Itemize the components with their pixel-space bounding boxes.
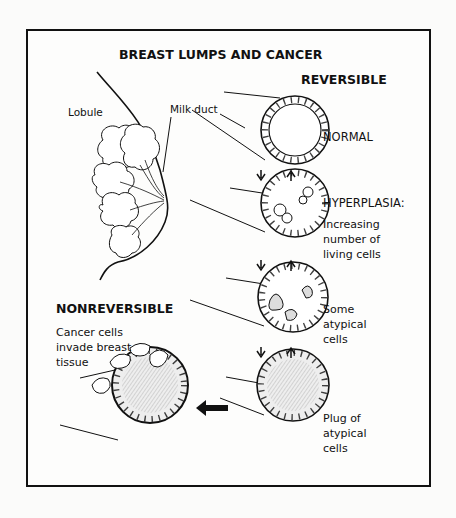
desc-line: cells [323,441,366,456]
label-lobule: Lobule [68,106,103,118]
desc-line: cells [323,332,366,347]
label-milk-duct: Milk duct [170,103,218,115]
stage-plug-desc: Plug of atypical cells [323,411,366,456]
desc-line: atypical [323,317,366,332]
desc-line: number of [323,232,381,247]
desc-line: tissue [56,355,131,370]
desc-line: Cancer cells [56,325,131,340]
duct-plug [257,349,329,421]
desc-line: invade breast [56,340,131,355]
desc-line: Increasing [323,217,381,232]
desc-line: Some [323,302,366,317]
diagram-illustration [0,0,456,518]
stage-atypical-desc: Some atypical cells [323,302,366,347]
section-nonreversible: NONREVERSIBLE [56,302,173,316]
lobules [92,124,159,257]
stage-hyperplasia-label: HYPERPLASIA: [323,197,405,210]
duct-hyperplasia [261,169,329,237]
desc-line: living cells [323,247,381,262]
duct-atypical [258,262,328,332]
figure-title: BREAST LUMPS AND CANCER [119,48,322,62]
section-reversible: REVERSIBLE [301,73,387,87]
desc-line: Plug of [323,411,366,426]
desc-line: atypical [323,426,366,441]
duct-normal [261,96,329,164]
stage-normal-label: NORMAL [323,131,373,144]
cancer-desc: Cancer cells invade breast tissue [56,325,131,370]
stage-hyperplasia-desc: Increasing number of living cells [323,217,381,262]
